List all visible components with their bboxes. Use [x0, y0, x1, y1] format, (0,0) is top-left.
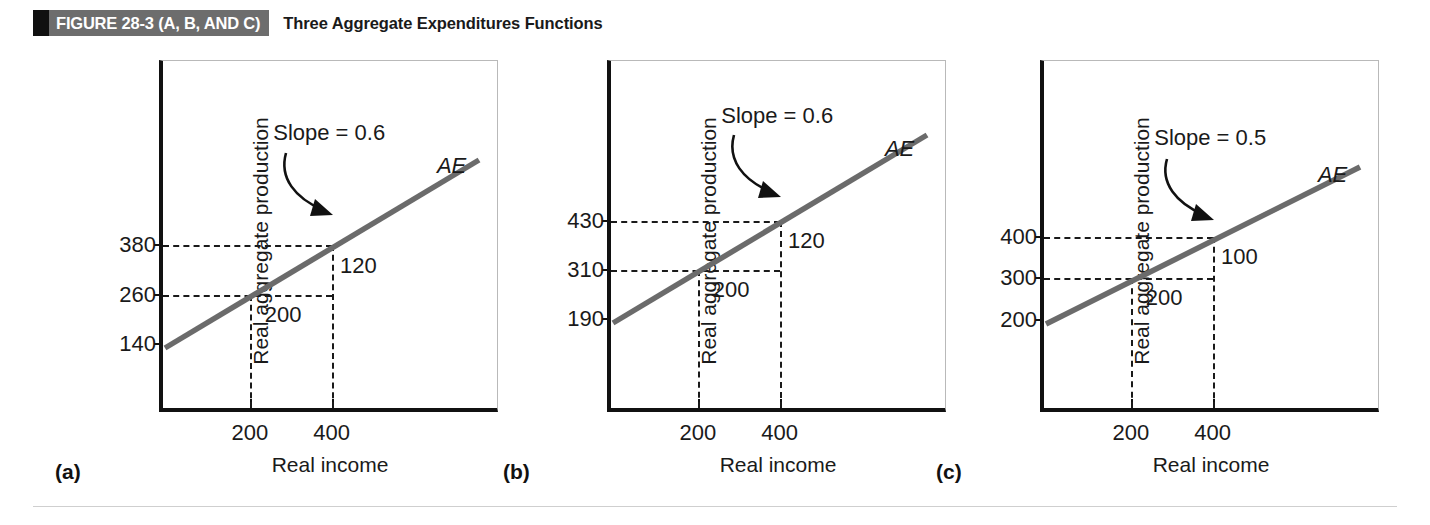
slope-annotation-c: Slope = 0.5 [1154, 125, 1266, 151]
run-label-b: 200 [713, 277, 750, 303]
y-tick-label-b-190: 190 [567, 306, 604, 332]
y-tick-label-a-140: 140 [119, 331, 156, 357]
dashed-guide-a-y380 [163, 245, 332, 247]
x-tick-label-c-400: 400 [1194, 420, 1231, 446]
figure-title: Three Aggregate Expenditures Functions [283, 14, 602, 33]
slope-annotation-b: Slope = 0.6 [721, 103, 833, 129]
dashed-guide-c-y400 [1044, 237, 1213, 239]
figure-header: FIGURE 28-3 (A, B, AND C) Three Aggregat… [33, 10, 603, 36]
dashed-guide-b-y430 [611, 221, 780, 223]
y-tick-label-a-380: 380 [119, 232, 156, 258]
panel-letter-c: (c) [936, 460, 962, 484]
panel-letter-b: (b) [503, 460, 530, 484]
plot-area-b: Real aggregate production 430 310 190 20… [607, 60, 946, 412]
x-tick-label-a-400: 400 [313, 420, 350, 446]
x-axis-title-c: Real income [1044, 453, 1378, 477]
run-label-a: 200 [265, 302, 302, 328]
y-tick-label-c-400: 400 [1000, 224, 1037, 250]
y-tick-label-c-300: 300 [1000, 265, 1037, 291]
y-axis-title-b: Real aggregate production [697, 91, 721, 391]
bottom-divider [33, 506, 1397, 507]
x-tick-label-b-400: 400 [761, 420, 798, 446]
y-axis-title-c: Real aggregate production [1130, 91, 1154, 391]
dashed-guide-a-y260 [163, 295, 332, 297]
dashed-guide-b-x200 [698, 270, 700, 408]
chart-panel-b: Real aggregate production 430 310 190 20… [470, 52, 930, 522]
y-tick-label-b-310: 310 [567, 257, 604, 283]
dashed-guide-c-x200 [1131, 278, 1133, 408]
rise-label-a: 120 [340, 253, 377, 279]
x-tick-label-b-200: 200 [679, 420, 716, 446]
dashed-guide-c-y300 [1044, 278, 1213, 280]
y-axis-title-a: Real aggregate production [249, 91, 273, 391]
dashed-guide-a-x200 [250, 295, 252, 408]
ae-series-label-c: AE [1318, 162, 1347, 188]
panel-letter-a: (a) [55, 460, 81, 484]
figure-number-tag: FIGURE 28-3 (A, B, AND C) [49, 10, 269, 36]
ae-series-label-a: AE [437, 153, 466, 179]
rise-label-c: 100 [1221, 244, 1258, 270]
dashed-guide-b-y310 [611, 270, 780, 272]
chart-panel-a: Real aggregate production 380 260 140 20… [22, 52, 482, 522]
x-tick-label-a-200: 200 [231, 420, 268, 446]
plot-area-a: Real aggregate production 380 260 140 20… [159, 60, 498, 412]
y-tick-label-a-260: 260 [119, 282, 156, 308]
chart-panel-c: Real aggregate production 400 300 200 20… [903, 52, 1363, 522]
dashed-guide-c-x400 [1213, 237, 1215, 408]
figure-banner: FIGURE 28-3 (A, B, AND C) [33, 10, 269, 36]
y-tick-label-b-430: 430 [567, 208, 604, 234]
x-tick-label-c-200: 200 [1112, 420, 1149, 446]
plot-area-c: Real aggregate production 400 300 200 20… [1040, 60, 1379, 412]
rise-label-b: 120 [788, 228, 825, 254]
dashed-guide-a-x400 [332, 245, 334, 408]
y-tick-label-c-200: 200 [1000, 307, 1037, 333]
slope-annotation-a: Slope = 0.6 [273, 120, 385, 146]
run-label-c: 200 [1146, 285, 1183, 311]
dashed-guide-b-x400 [780, 221, 782, 408]
x-axis-title-a: Real income [163, 453, 497, 477]
banner-square-icon [33, 10, 49, 36]
x-axis-title-b: Real income [611, 453, 945, 477]
